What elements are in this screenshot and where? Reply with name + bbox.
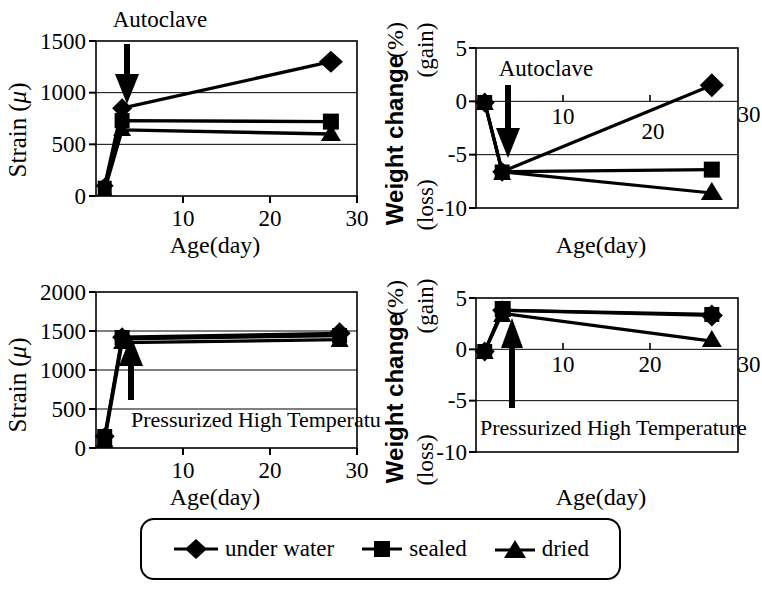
- series-line-dried: [105, 130, 331, 190]
- markers-day27: [700, 73, 724, 200]
- xtick-label-30: 30: [738, 352, 761, 377]
- chart-panel-weight-pressurized: Weight change (%) (gain) (loss) 5 0 -5 -…: [381, 260, 762, 512]
- y-axis-title: Strain(μ): [4, 83, 32, 178]
- ytick-label-minus10: -10: [436, 440, 467, 465]
- xtick-label-20: 20: [259, 206, 282, 231]
- legend-entry-dried[interactable]: dried: [493, 536, 589, 562]
- chart-panel-strain-autoclave: Strain(μ) Autoclave 1500 1000 500 0 10 2…: [0, 0, 381, 260]
- ytick-label-5: 5: [456, 36, 468, 61]
- xtick-label-20: 20: [639, 352, 662, 377]
- legend-label-dried: dried: [542, 536, 589, 562]
- ytick-label-500: 500: [52, 397, 87, 422]
- diamond-marker-icon: [172, 537, 220, 561]
- y-axis-loss-label: (loss): [413, 434, 438, 485]
- legend-entry-under-water[interactable]: under water: [172, 536, 334, 562]
- y-axis-unit: (%): [382, 280, 408, 316]
- y-axis-title: Weight change: [381, 55, 408, 225]
- legend-label-under-water: under water: [225, 536, 334, 562]
- legend-entry-sealed[interactable]: sealed: [360, 536, 466, 562]
- series-line-dried: [485, 102, 712, 193]
- markers-day27: [319, 51, 343, 141]
- annotation-pressurized-high-temperature: Pressurized High Temperature: [480, 415, 747, 440]
- ytick-label-0: 0: [75, 184, 87, 209]
- chart-panel-strain-pressurized: Strain(μ) 2000 1500 1000 500 0 10 20 30 …: [0, 260, 381, 512]
- xtick-label-30: 30: [346, 458, 369, 483]
- xtick-label-10: 10: [172, 458, 195, 483]
- x-axis-title: Age(day): [170, 484, 261, 510]
- y-axis-title: Weight change: [381, 313, 408, 483]
- ytick-label-0: 0: [456, 337, 468, 362]
- markers-day3: [492, 162, 512, 182]
- y-axis-gain-label: (gain): [413, 23, 438, 78]
- markers-day1: [475, 92, 495, 112]
- xtick-label-30: 30: [346, 206, 369, 231]
- x-axis-title: Age(day): [170, 232, 261, 258]
- ytick-label-minus10: -10: [436, 196, 467, 221]
- xtick-label-10: 10: [552, 352, 575, 377]
- ytick-label-minus5: -5: [448, 142, 467, 167]
- ytick-label-1500: 1500: [40, 29, 86, 54]
- y-axis-gain-label: (gain): [413, 279, 438, 334]
- y-axis-unit: (%): [382, 22, 408, 58]
- strain-pressurized-svg: Strain(μ) 2000 1500 1000 500 0 10 20 30 …: [0, 260, 381, 512]
- markers-day1: [475, 341, 495, 361]
- square-marker-icon: [360, 537, 404, 561]
- xtick-label-20: 20: [259, 458, 282, 483]
- xtick-label-30: 30: [738, 102, 761, 127]
- ytick-label-500: 500: [52, 132, 87, 157]
- legend: under water sealed dried: [140, 518, 621, 580]
- annotation-arrow-down: [496, 85, 520, 158]
- strain-autoclave-svg: Strain(μ) Autoclave 1500 1000 500 0 10 2…: [0, 0, 381, 260]
- legend-row: under water sealed dried: [142, 520, 619, 578]
- markers-day3: [492, 300, 512, 322]
- annotation-arrow-down: [115, 44, 139, 104]
- annotation-autoclave: Autoclave: [113, 7, 208, 32]
- series-line-under-water: [105, 62, 331, 186]
- ytick-label-2000: 2000: [40, 280, 86, 305]
- weight-autoclave-svg: Weight change (%) (gain) (loss) 5 0 -5 -…: [381, 0, 762, 260]
- ytick-label-0: 0: [456, 89, 468, 114]
- ytick-label-5: 5: [456, 286, 468, 311]
- annotation-pressurized-high-temperature: Pressurized High Temperature: [131, 407, 381, 432]
- triangle-marker-icon: [493, 537, 537, 561]
- annotation-autoclave: Autoclave: [499, 56, 594, 81]
- x-axis-title: Age(day): [556, 232, 647, 258]
- ytick-label-1000: 1000: [40, 80, 86, 105]
- ytick-label-1000: 1000: [40, 358, 86, 383]
- weight-pressurized-svg: Weight change (%) (gain) (loss) 5 0 -5 -…: [381, 260, 762, 512]
- ytick-label-0: 0: [75, 436, 87, 461]
- y-axis-loss-label: (loss): [413, 179, 438, 230]
- xtick-label-10: 10: [552, 104, 575, 129]
- x-axis-title: Age(day): [556, 484, 647, 510]
- xtick-label-20: 20: [642, 119, 665, 144]
- legend-label-sealed: sealed: [409, 536, 466, 562]
- figure-container: Strain(μ) Autoclave 1500 1000 500 0 10 2…: [0, 0, 762, 597]
- y-axis-title: Strain(μ): [4, 338, 32, 433]
- xtick-label-10: 10: [172, 206, 195, 231]
- markers-day1: [96, 178, 114, 196]
- ytick-label-minus5: -5: [448, 388, 467, 413]
- chart-panel-weight-autoclave: Weight change (%) (gain) (loss) 5 0 -5 -…: [381, 0, 762, 260]
- markers-day1: [95, 427, 115, 448]
- markers-day28: [329, 322, 351, 347]
- series-line-sealed: [485, 102, 712, 171]
- ytick-label-1500: 1500: [40, 319, 86, 344]
- annotation-arrow-up: [501, 318, 523, 408]
